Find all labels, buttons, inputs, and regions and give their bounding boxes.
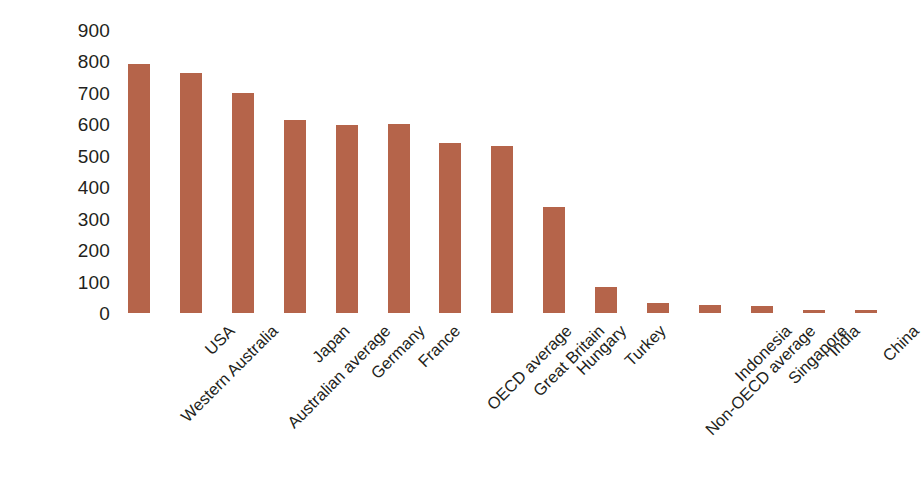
y-axis-tick-label: 100 [58,273,110,292]
y-axis-tick-label: 300 [58,210,110,229]
y-axis-tick-label: 200 [58,241,110,260]
y-axis-tick-label: 800 [58,52,110,71]
bar-slot [224,30,276,313]
x-axis-tick: OECD average [431,316,483,326]
y-axis-tick-label: 400 [58,178,110,197]
x-axis-tick: Turkey [587,316,639,326]
x-axis-tick: Germany [328,316,380,326]
bar-slot [587,30,639,313]
bar[interactable] [751,306,773,313]
x-axis-tick: Great Britain [483,316,535,326]
bar-slot [847,30,899,313]
bar[interactable] [180,73,202,313]
y-axis-tick-label: 500 [58,147,110,166]
bar-slot [795,30,847,313]
x-axis-tick: Western Australia [120,316,172,326]
bar[interactable] [803,310,825,313]
y-axis: 9008007006005004003002001000 [58,24,110,314]
bar[interactable] [543,207,565,313]
bar[interactable] [232,93,254,313]
bar[interactable] [595,287,617,313]
bar[interactable] [128,64,150,313]
bar-slot [639,30,691,313]
x-axis-tick-label: USA [202,322,238,358]
bar[interactable] [491,146,513,313]
bar-slot [743,30,795,313]
x-axis-tick: China [847,316,899,326]
bar[interactable] [647,303,669,313]
y-axis-tick-label: 0 [58,304,110,323]
bar-slot [691,30,743,313]
x-axis-tick: Japan [276,316,328,326]
bar[interactable] [336,125,358,313]
x-axis-tick: France [380,316,432,326]
y-axis-tick-label: 900 [58,21,110,40]
bar-slot [380,30,432,313]
bar-slot [328,30,380,313]
x-axis-tick: Singapore [743,316,795,326]
bar[interactable] [439,143,461,313]
x-axis-tick-label: Turkey [622,322,669,369]
bar-slot [535,30,587,313]
bar[interactable] [388,124,410,313]
x-axis-tick: Indonesia [691,316,743,326]
bar[interactable] [855,310,877,313]
x-axis: Western AustraliaUSAAustralian averageJa… [120,316,880,496]
bar-slot [172,30,224,313]
bar[interactable] [284,120,306,313]
x-axis-tick: Non-OECD average [639,316,691,326]
bar[interactable] [699,305,721,313]
y-axis-tick-label: 600 [58,115,110,134]
bar-slot [276,30,328,313]
x-axis-tick: India [795,316,847,326]
x-axis-tick: Hungary [535,316,587,326]
x-axis-tick: Australian average [224,316,276,326]
x-axis-tick: USA [172,316,224,326]
y-axis-tick-label: 700 [58,84,110,103]
plot-area [120,30,868,313]
bar-slot [431,30,483,313]
bar-slot [483,30,535,313]
bar-slot [120,30,172,313]
x-axis-tick-label: China [879,322,922,365]
